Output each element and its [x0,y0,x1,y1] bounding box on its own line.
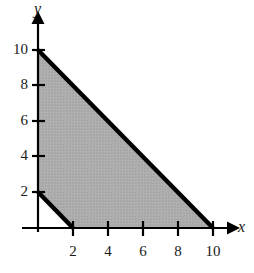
x-tick-label-10: 10 [198,244,228,259]
y-axis-label: y [34,1,41,17]
x-axis-label: x [238,219,245,235]
x-tick-label-8: 8 [163,244,193,259]
plot-canvas [0,0,254,273]
x-tick-label-6: 6 [128,244,158,259]
x-tick-label-2: 2 [58,244,88,259]
y-tick-label-6: 6 [2,113,28,128]
y-tick-label-4: 4 [2,148,28,163]
y-tick-label-8: 8 [2,77,28,92]
x-tick-label-4: 4 [93,244,123,259]
y-tick-label-10: 10 [2,42,28,57]
chart-figure: 10 8 6 4 2 2 4 6 8 10 y x [0,0,254,273]
y-tick-label-2: 2 [2,184,28,199]
